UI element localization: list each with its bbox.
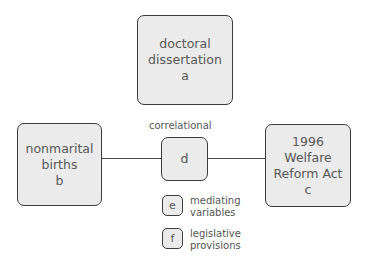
legend-e-line-2: variables [190,207,241,219]
node-c-line-3: Reform Act [273,166,342,182]
node-nonmarital-births: nonmarital births b [17,123,102,206]
legend-key-e-text: e [169,200,176,212]
node-doctoral-dissertation: doctoral dissertation a [137,15,233,105]
node-c-line-1: 1996 [292,134,324,150]
edge-b-to-d [102,158,162,159]
node-c-line-4: c [305,182,312,198]
legend-e-line-1: mediating [190,195,241,207]
node-b-line-1: nonmarital [26,141,94,157]
node-a-line-1: doctoral [159,36,210,52]
legend-label-mediating-variables: mediating variables [190,195,241,219]
node-b-line-3: b [56,173,64,189]
node-d-line-1: d [181,151,189,167]
node-a-line-3: a [181,68,189,84]
legend-f-line-2: provisions [190,240,241,252]
legend-f-line-1: legislative [190,228,241,240]
node-c-line-2: Welfare [284,150,331,166]
legend-label-legislative-provisions: legislative provisions [190,228,241,252]
legend-key-f-text: f [171,233,175,245]
node-a-line-2: dissertation [148,52,222,68]
legend-key-f: f [162,228,183,249]
legend-key-e: e [162,195,183,216]
edge-label-correlational: correlational [149,120,212,131]
node-d: d [161,137,208,181]
node-b-line-2: births [42,157,78,173]
edge-d-to-c [207,158,266,159]
node-welfare-reform-act: 1996 Welfare Reform Act c [265,124,351,207]
